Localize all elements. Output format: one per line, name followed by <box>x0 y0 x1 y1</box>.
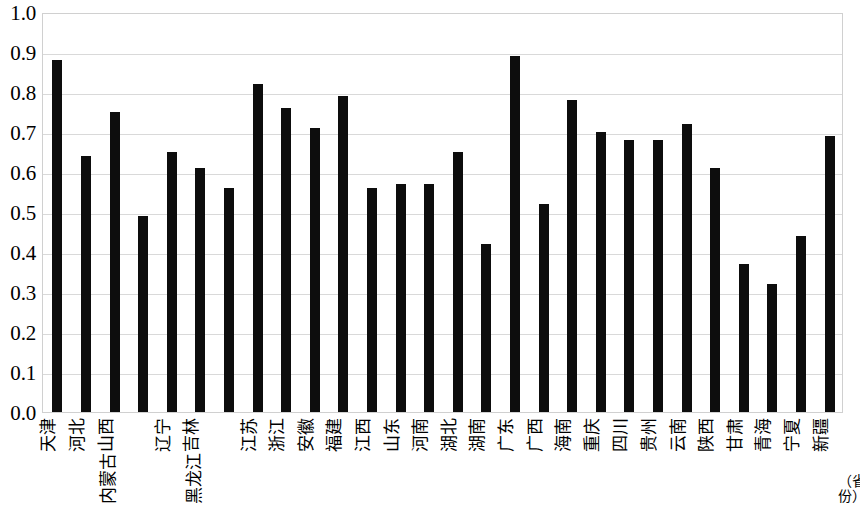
x-tick-label: 浙江 <box>268 418 286 452</box>
y-tick-label: 0.8 <box>10 83 36 104</box>
bar <box>596 132 606 412</box>
bar <box>567 100 577 412</box>
x-tick-label: 安徽 <box>297 418 315 452</box>
x-tick: 内蒙古 <box>128 414 156 506</box>
bar <box>682 124 692 412</box>
x-tick-label: 青海 <box>754 418 772 452</box>
bar <box>510 56 520 412</box>
x-tick-label: 天津 <box>39 418 57 452</box>
x-tick-label: 广东 <box>497 418 515 452</box>
bar <box>195 168 205 412</box>
bar <box>367 188 377 412</box>
x-tick: 贵州 <box>643 414 671 506</box>
x-tick-label: 甘肃 <box>726 418 744 452</box>
x-tick-label: 山东 <box>383 418 401 452</box>
x-tick-label: 江西 <box>354 418 372 452</box>
y-tick-label: 1.0 <box>10 3 36 24</box>
y-tick-label: 0.6 <box>10 163 36 184</box>
y-tick-label: 0.4 <box>10 243 36 264</box>
bar <box>424 184 434 412</box>
x-tick-label: 宁夏 <box>783 418 801 452</box>
x-tick-label: 四川 <box>611 418 629 452</box>
x-tick-label: 福建 <box>325 418 343 452</box>
x-tick-label: 内蒙古 <box>99 418 117 504</box>
y-tick-label: 0.7 <box>10 123 36 144</box>
bar <box>396 184 406 412</box>
bar <box>281 108 291 412</box>
bar <box>253 84 263 412</box>
x-tick-label: 海南 <box>554 418 572 452</box>
bar <box>825 136 835 412</box>
x-tick-label: 湖南 <box>468 418 486 452</box>
y-tick-label: 0.2 <box>10 323 36 344</box>
x-tick-label: 江苏 <box>240 418 258 452</box>
x-tick: 浙江 <box>271 414 299 506</box>
plot-area <box>42 13 843 413</box>
x-tick: 广东 <box>500 414 528 506</box>
bar <box>767 284 777 412</box>
x-tick: 黑龙江 <box>214 414 242 506</box>
x-tick-label: 云南 <box>669 418 687 452</box>
y-tick-label: 0.5 <box>10 203 36 224</box>
bar <box>338 96 348 412</box>
bar <box>138 216 148 412</box>
bar <box>624 140 634 412</box>
bar <box>653 140 663 412</box>
x-tick: 河南 <box>414 414 442 506</box>
bar <box>110 112 120 412</box>
x-tick-label: 重庆 <box>583 418 601 452</box>
bar-chart: 1.00.90.80.70.60.50.40.30.20.10.0 天津河北山西… <box>0 0 860 506</box>
bars-layer <box>43 14 842 412</box>
bar <box>52 60 62 412</box>
x-tick: 宁夏 <box>786 414 814 506</box>
x-tick-label: 辽宁 <box>154 418 172 452</box>
x-tick-label: 黑龙江 <box>185 418 203 504</box>
bar <box>453 152 463 412</box>
x-tick-label: 广西 <box>526 418 544 452</box>
x-axis: 天津河北山西内蒙古辽宁吉林黑龙江江苏浙江安徽福建江西山东河南湖北湖南广东广西海南… <box>42 414 843 506</box>
bar <box>539 204 549 412</box>
x-axis-title: （省份） <box>838 474 858 504</box>
x-tick-label: 湖北 <box>440 418 458 452</box>
bar <box>739 264 749 412</box>
y-tick-label: 0.0 <box>10 403 36 424</box>
y-tick-label: 0.3 <box>10 283 36 304</box>
x-tick-label: 河北 <box>68 418 86 452</box>
y-axis: 1.00.90.80.70.60.50.40.30.20.10.0 <box>0 0 42 506</box>
x-tick-label: 贵州 <box>640 418 658 452</box>
x-tick-label: 新疆 <box>812 418 830 452</box>
x-tick: 江西 <box>357 414 385 506</box>
bar <box>224 188 234 412</box>
x-tick: 河北 <box>71 414 99 506</box>
bar <box>81 156 91 412</box>
x-tick-label: 陕西 <box>697 418 715 452</box>
bar <box>310 128 320 412</box>
y-tick-label: 0.9 <box>10 43 36 64</box>
bar <box>481 244 491 412</box>
bar <box>167 152 177 412</box>
bar <box>796 236 806 412</box>
y-tick-label: 0.1 <box>10 363 36 384</box>
bar <box>710 168 720 412</box>
x-tick-label: 河南 <box>411 418 429 452</box>
